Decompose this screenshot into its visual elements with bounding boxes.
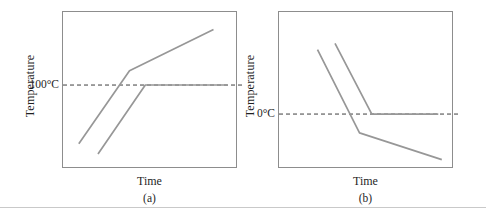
plot-wrap-a: Temperature 100°C: [62, 11, 237, 168]
chart-a: Temperature 100°C Time (a): [0, 0, 243, 218]
plot-wrap-b: Temperature 0°C: [278, 11, 453, 168]
line-chart-b-svg: [279, 12, 454, 169]
page-bottom-rule: [0, 207, 486, 208]
ref-line-label-b: 0°C: [257, 107, 275, 119]
chart-caption-b: (b): [278, 192, 453, 204]
x-axis-label-a: Time: [62, 174, 237, 189]
plot-area-b: [278, 11, 453, 168]
line-chart-a-svg: [63, 12, 238, 169]
figure-canvas: Temperature 100°C Time (a) Temperature 0…: [0, 0, 486, 218]
below-axis-b: Time (b): [278, 174, 453, 204]
x-axis-label-b: Time: [278, 174, 453, 189]
below-axis-a: Time (a): [62, 174, 237, 204]
series-cooling-curve-falling-through-0: [318, 50, 442, 160]
series-cooling-curve-plateau-at-0: [335, 43, 438, 114]
y-axis-label-b: Temperature: [243, 55, 258, 118]
chart-b: Temperature 0°C Time (b): [243, 0, 486, 218]
series-heating-curve-plateau-at-100: [98, 85, 228, 154]
series-heating-curve-rising-through-100: [79, 30, 214, 144]
plot-area-a: [62, 11, 237, 168]
ref-line-label-a: 100°C: [29, 78, 59, 90]
chart-caption-a: (a): [62, 192, 237, 204]
